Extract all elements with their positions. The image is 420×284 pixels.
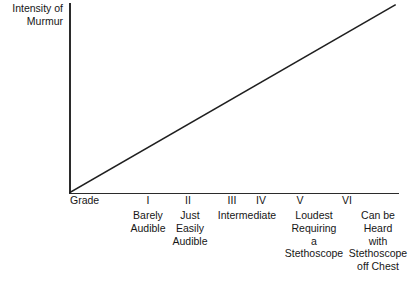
grade-description-iv: Intermediate — [209, 209, 285, 222]
grade-axis-caption: Grade — [70, 194, 99, 207]
grade-tick-iv: IV — [256, 194, 266, 207]
grade-tick-ii: II — [185, 194, 191, 207]
y-axis-label: Intensity of Murmur — [0, 2, 63, 27]
grade-tick-v: V — [296, 194, 303, 207]
grade-description-vi: Can be Heard with Stethoscope off Chest — [339, 209, 417, 273]
y-axis-line — [69, 3, 71, 194]
grade-tick-vi: VI — [342, 194, 352, 207]
figure-canvas: Intensity of Murmur Grade IIIIIIIVVVI Ba… — [0, 0, 420, 284]
grade-tick-i: I — [147, 194, 150, 207]
grade-tick-iii: III — [228, 194, 237, 207]
grade-axis-row: Grade IIIIIIIVVVI — [0, 194, 420, 208]
